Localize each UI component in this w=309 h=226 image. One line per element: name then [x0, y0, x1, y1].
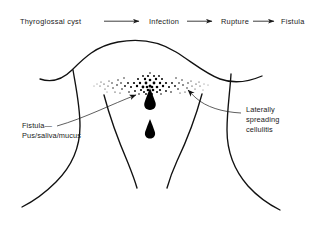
- left-sternocleidomastoid: [104, 95, 137, 188]
- fistula-annotation: Fistula— Pus/saliva/mucus: [22, 95, 136, 140]
- discharge-droplets: [144, 88, 156, 139]
- fistula-label-line-0: Fistula—: [22, 121, 52, 130]
- right-neck-contour: [227, 74, 280, 210]
- flow-step-label-3: Fistula: [281, 17, 305, 26]
- droplet-lower: [145, 119, 155, 139]
- flow-chart: Thyroglossal cyst Infection Rupture Fist…: [20, 17, 305, 26]
- cellulitis-label-line-0: Laterally: [246, 105, 275, 114]
- right-sternocleidomastoid: [167, 94, 202, 188]
- flow-step-label-1: Infection: [149, 17, 179, 26]
- fistula-label-line-1: Pus/saliva/mucus: [22, 131, 81, 140]
- figure-root: Thyroglossal cyst Infection Rupture Fist…: [0, 0, 309, 226]
- cellulitis-leader-line: [188, 90, 241, 113]
- cellulitis-label-line-2: cellulitis: [246, 125, 273, 134]
- flow-step-label-0: Thyroglossal cyst: [20, 17, 81, 26]
- fistula-leader-line: [57, 95, 136, 126]
- flow-step-label-2: Rupture: [221, 17, 249, 26]
- cellulitis-label-line-1: spreading: [246, 115, 279, 124]
- diagram-canvas: Thyroglossal cyst Infection Rupture Fist…: [0, 0, 309, 226]
- droplet-upper: [144, 88, 156, 110]
